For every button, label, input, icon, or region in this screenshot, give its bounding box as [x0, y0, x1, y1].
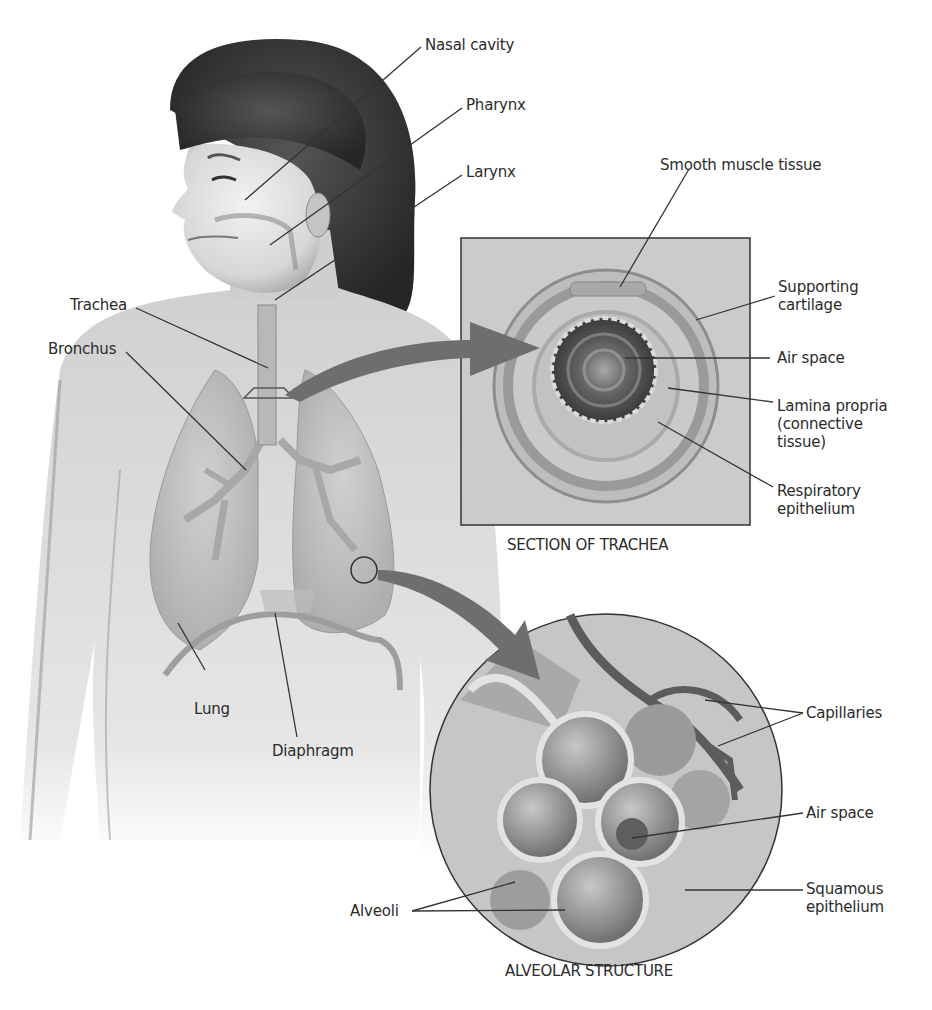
label-nasal-cavity: Nasal cavity	[425, 36, 514, 54]
label-lung: Lung	[194, 700, 230, 718]
label-capillaries: Capillaries	[806, 704, 882, 722]
label-squamous-epithelium: Squamous epithelium	[806, 880, 884, 916]
label-bronchus: Bronchus	[48, 340, 116, 358]
label-alveolar-air-space: Air space	[806, 804, 874, 822]
label-supporting-cartilage: Supporting cartilage	[778, 278, 859, 314]
label-pharynx: Pharynx	[466, 96, 526, 114]
label-larynx: Larynx	[466, 163, 516, 181]
caption-section-of-trachea: SECTION OF TRACHEA	[507, 536, 668, 554]
label-trachea-air-space: Air space	[777, 349, 845, 367]
trachea-section-panel	[461, 238, 750, 525]
label-smooth-muscle-tissue: Smooth muscle tissue	[660, 156, 821, 174]
label-respiratory-epithelium: Respiratory epithelium	[777, 482, 861, 518]
label-alveoli: Alveoli	[350, 902, 399, 920]
alveolar-structure-circle	[430, 614, 782, 966]
label-trachea: Trachea	[70, 296, 127, 314]
label-lamina-propria: Lamina propria (connective tissue)	[777, 397, 888, 451]
caption-alveolar-structure: ALVEOLAR STRUCTURE	[505, 962, 673, 980]
label-diaphragm: Diaphragm	[272, 742, 354, 760]
